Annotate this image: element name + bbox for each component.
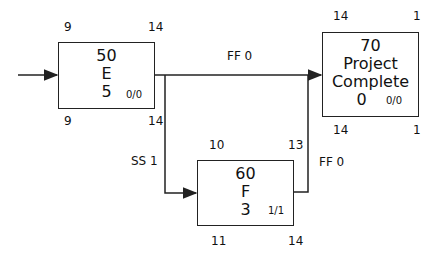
complete-late-start: 14 xyxy=(333,124,348,136)
f-late-finish: 14 xyxy=(288,235,303,247)
activity-box-e[interactable]: 50 E 5 0/0 xyxy=(58,42,155,109)
complete-late-finish: 1 xyxy=(413,124,421,136)
f-early-start: 10 xyxy=(209,139,224,151)
activity-id: 50 xyxy=(59,47,154,65)
activity-name-line1: Project xyxy=(323,55,418,73)
e-early-start: 9 xyxy=(64,21,72,33)
activity-name: F xyxy=(198,183,293,201)
activity-float: 1/1 xyxy=(268,205,284,216)
complete-early-finish: 1 xyxy=(413,10,421,22)
relationship-label-e-f: SS 1 xyxy=(131,155,158,167)
activity-name: E xyxy=(59,65,154,83)
activity-float: 0/0 xyxy=(126,89,142,100)
e-late-finish: 14 xyxy=(148,115,163,127)
activity-name-line2: Complete xyxy=(323,73,418,91)
activity-box-project-complete[interactable]: 70 Project Complete 0 0/0 xyxy=(322,32,419,117)
complete-early-start: 14 xyxy=(333,10,348,22)
activity-id: 70 xyxy=(323,37,418,55)
relationship-label-e-complete: FF 0 xyxy=(227,50,252,62)
arrow-e-to-f xyxy=(165,75,196,193)
activity-box-f[interactable]: 60 F 3 1/1 xyxy=(197,160,294,226)
relationship-label-f-complete: FF 0 xyxy=(319,156,344,168)
activity-id: 60 xyxy=(198,165,293,183)
f-early-finish: 13 xyxy=(288,139,303,151)
f-late-start: 11 xyxy=(211,235,226,247)
e-early-finish: 14 xyxy=(148,21,163,33)
activity-float: 0/0 xyxy=(386,95,402,106)
e-late-start: 9 xyxy=(64,115,72,127)
